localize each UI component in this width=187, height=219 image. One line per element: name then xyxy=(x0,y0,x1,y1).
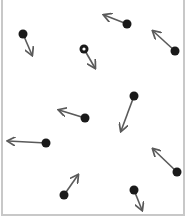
diagram-frame xyxy=(2,0,184,215)
particle-dot xyxy=(60,191,69,200)
particle-dot xyxy=(123,20,132,29)
particles xyxy=(19,20,182,200)
particle-dot xyxy=(173,168,182,177)
velocity-arrow-icon xyxy=(8,141,46,143)
particle-dot xyxy=(42,139,51,148)
particle-dot xyxy=(81,114,90,123)
velocity-arrow-icon xyxy=(153,149,177,172)
particle-dot xyxy=(130,186,139,195)
particle-highlight xyxy=(82,47,85,50)
velocity-arrow-icon xyxy=(121,96,134,131)
particle-dot xyxy=(171,47,180,56)
particle-diagram xyxy=(0,0,187,219)
velocity-arrows xyxy=(8,15,177,210)
particle-dot xyxy=(19,30,28,39)
particle-dot xyxy=(130,92,139,101)
